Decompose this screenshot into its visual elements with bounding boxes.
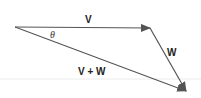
vector-addition-diagram: V W V + W θ <box>0 0 201 98</box>
vector-v-arrow <box>15 27 150 28</box>
label-v-plus-w: V + W <box>78 66 106 77</box>
label-theta: θ <box>50 29 55 40</box>
vector-w-arrow <box>150 28 186 91</box>
vector-sum-arrow <box>15 27 186 91</box>
label-v: V <box>85 14 92 25</box>
label-w: W <box>167 47 177 58</box>
